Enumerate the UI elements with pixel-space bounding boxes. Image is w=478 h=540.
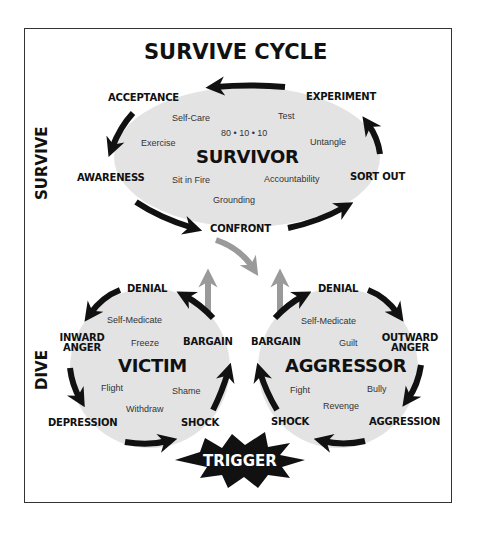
role-victim: VICTIM [118, 355, 187, 376]
aggressor-item-bully: Bully [367, 384, 387, 394]
aggressor-stage-denial: DENIAL [318, 283, 358, 294]
item-test: Test [278, 111, 295, 121]
item-ratio: 80 • 10 • 10 [221, 128, 267, 138]
victim-item-shame: Shame [172, 386, 201, 396]
aggressor-stage-shock: SHOCK [271, 416, 309, 427]
victim-stage-shock: SHOCK [181, 417, 219, 428]
aggressor-item-self-medicate: Self-Medicate [301, 316, 356, 326]
item-untangle: Untangle [310, 137, 346, 147]
victim-item-freeze: Freeze [131, 338, 159, 348]
stage-experiment: EXPERIMENT [306, 91, 376, 102]
victim-stage-depression: DEPRESSION [48, 417, 118, 428]
arrow-aggressor-aggression-to-shock [323, 441, 365, 444]
aggressor-item-revenge: Revenge [323, 401, 359, 411]
item-accountability: Accountability [264, 174, 320, 184]
stage-acceptance: ACCEPTANCE [108, 92, 179, 103]
trigger-label: TRIGGER [203, 452, 277, 470]
role-survivor: SURVIVOR [196, 146, 298, 167]
aggressor-stage-bargain: BARGAIN [251, 336, 301, 347]
item-exercise: Exercise [141, 138, 176, 148]
side-label-survive: SURVIVE [33, 126, 51, 200]
role-aggressor: AGGRESSOR [285, 355, 406, 376]
side-label-dive: DIVE [33, 350, 51, 390]
aggressor-stage-aggression: AGGRESSION [369, 416, 440, 427]
item-self-care: Self-Care [172, 113, 210, 123]
victim-item-withdraw: Withdraw [126, 404, 164, 414]
victim-stage-bargain: BARGAIN [183, 336, 233, 347]
item-sit-in-fire: Sit in Fire [172, 175, 210, 185]
aggressor-stage-outward-anger: OUTWARD ANGER [379, 333, 441, 353]
victim-stage-denial: DENIAL [127, 283, 167, 294]
victim-stage-inward-anger: INWARD ANGER [57, 333, 107, 353]
arrow-confront-to-dive [216, 240, 253, 268]
arrow-experiment-to-acceptance [215, 86, 285, 88]
stage-confront: CONFRONT [210, 223, 271, 234]
arrow-victim-depression-to-shock [125, 441, 168, 444]
aggressor-item-fight: Fight [290, 385, 310, 395]
stage-awareness: AWARENESS [77, 172, 145, 183]
stage-sort-out: SORT OUT [350, 171, 405, 182]
aggressor-item-guilt: Guilt [339, 338, 358, 348]
item-grounding: Grounding [213, 195, 255, 205]
victim-item-flight: Flight [101, 383, 123, 393]
diagram-title: SURVIVE CYCLE [144, 40, 327, 64]
victim-item-self-medicate: Self-Medicate [107, 315, 162, 325]
